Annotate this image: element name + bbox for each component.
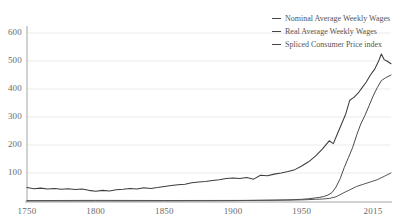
x-tick-label: 1800 [76, 206, 116, 216]
chart-container: 600500400300200100 175018001850190019502… [0, 0, 400, 224]
legend-item-label: Real Average Weekly Wages [285, 26, 377, 37]
legend-item-label: Nominal Average Weekly Wages [285, 13, 390, 24]
legend-line-swatch-icon [272, 31, 281, 32]
legend-item-label: Spliced Consumer Price index [285, 39, 382, 50]
chart-legend: Nominal Average Weekly Wages Real Averag… [272, 13, 400, 52]
x-tick-label: 2015 [353, 206, 393, 216]
x-tick-label: 1900 [213, 206, 253, 216]
y-tick-label: 100 [0, 167, 22, 177]
x-tick-label: 1850 [144, 206, 184, 216]
y-tick-label: 600 [0, 27, 22, 37]
legend-item-spliced-consumer-price-index[interactable]: Spliced Consumer Price index [272, 39, 400, 50]
series-line-1 [27, 54, 391, 191]
x-tick-label: 1950 [282, 206, 322, 216]
axis-lines-group [25, 26, 392, 202]
y-tick-label: 300 [0, 111, 22, 121]
x-tick-label: 1750 [7, 206, 47, 216]
y-tick-label: 500 [0, 55, 22, 65]
series-lines-group [27, 54, 391, 201]
series-line-0 [27, 75, 391, 201]
gridlines-group [27, 33, 391, 173]
legend-item-real-average-weekly-wages[interactable]: Real Average Weekly Wages [272, 26, 400, 37]
legend-line-swatch-icon [272, 18, 281, 19]
y-tick-label: 400 [0, 83, 22, 93]
legend-item-nominal-average-weekly-wages[interactable]: Nominal Average Weekly Wages [272, 13, 400, 24]
y-tick-label: 200 [0, 139, 22, 149]
legend-line-swatch-icon [272, 44, 281, 45]
